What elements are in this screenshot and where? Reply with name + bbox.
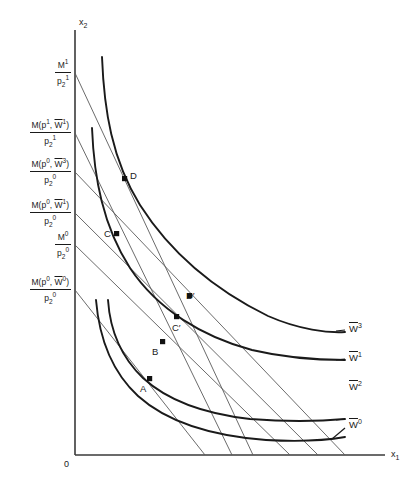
indifference-curve-W3 (102, 57, 345, 332)
indifference-curve-W1 (92, 128, 345, 360)
intercept-denominator: p20 (30, 172, 72, 187)
intercept-label-Mp0W0-p20: M(p0, W0) p20 (30, 275, 72, 305)
point-label-D-prime: D′ (186, 290, 195, 301)
intercept-numerator: M(p0, W0) (30, 275, 72, 290)
intercept-label-M0-p20: M0 p20 (55, 230, 71, 260)
budget-line-Mp0W0-p0 (75, 290, 205, 455)
point-label-B: B (152, 346, 158, 357)
intercept-numerator: M1 (55, 58, 71, 73)
indifference-curve-W0 (96, 300, 345, 441)
intercept-denominator: p21 (30, 133, 72, 148)
marker-C-prime (174, 314, 179, 319)
intercept-denominator: p21 (55, 73, 71, 88)
point-label-C-prime: C′ (172, 322, 181, 333)
budget-line-Mp0W1-p0 (75, 213, 318, 455)
intercept-label-Mp0W3-p20: M(p0, W3) p20 (30, 157, 72, 187)
intercept-numerator: M0 (55, 230, 71, 245)
marker-D (122, 176, 127, 181)
point-label-A: A (140, 383, 146, 394)
intercept-label-Mp1W1-p21: M(p1, W1) p21 (30, 118, 72, 148)
intercept-numerator: M(p0, W1) (30, 198, 72, 213)
marker-C (114, 231, 119, 236)
intercept-denominator: p20 (30, 213, 72, 228)
intercept-numerator: M(p1, W1) (30, 118, 72, 133)
curve-label-W0: W0 (349, 418, 362, 430)
intercept-label-M1-p21: M1 p21 (55, 58, 71, 88)
budget-line-Mp1W1-p1 (75, 133, 232, 455)
curve-label-W2: W2 (349, 380, 362, 392)
indifference-curve-diagram: x2 x1 0 M1 p21 M(p1, W1) p21 M(p0, W3) p… (0, 0, 417, 488)
marker-A (147, 376, 152, 381)
point-label-D: D (130, 170, 137, 181)
leader-W3 (336, 330, 345, 331)
point-label-C: C (104, 228, 111, 239)
curve-label-W1: W1 (349, 351, 362, 363)
y-axis-label: x2 (79, 17, 87, 29)
budget-line-M1-p1 (75, 73, 253, 455)
intercept-denominator: p20 (55, 245, 71, 260)
indifference-curves-group (92, 57, 345, 441)
intercept-denominator: p20 (30, 290, 72, 305)
intercept-label-Mp0W1-p20: M(p0, W1) p20 (30, 198, 72, 228)
curve-label-W3: W3 (349, 322, 362, 334)
axes-group (75, 30, 385, 455)
origin-label: 0 (64, 459, 69, 469)
curve-label-leaders-group (332, 330, 345, 439)
indifference-curve-W2 (108, 300, 345, 421)
budget-lines-group (75, 73, 345, 455)
intercept-numerator: M(p0, W3) (30, 157, 72, 172)
marker-B (160, 339, 165, 344)
x-axis-label: x1 (391, 449, 399, 461)
